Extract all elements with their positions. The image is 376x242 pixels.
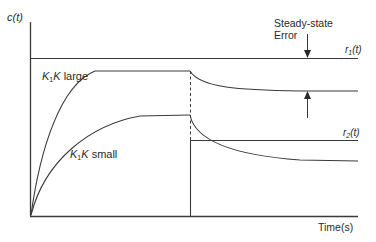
curve-large-gain xyxy=(31,71,190,215)
arrow-up-icon xyxy=(304,91,311,99)
reference-1-label: r1(t) xyxy=(345,44,362,56)
control-response-diagram: c(t) Time(s) Steady-state Error r1(t) r2… xyxy=(0,0,376,242)
curve-small-gain-after xyxy=(190,115,358,161)
steady-state-label-line2: Error xyxy=(274,29,298,41)
arrow-down-icon xyxy=(304,50,311,58)
steady-state-label-line1: Steady-state xyxy=(274,17,333,29)
curve-large-gain-after xyxy=(190,71,358,91)
reference-2-label: r2(t) xyxy=(343,127,360,139)
y-axis-label: c(t) xyxy=(7,11,23,23)
curve-large-label: K1K large xyxy=(42,70,88,83)
curve-small-gain xyxy=(31,115,190,215)
x-axis-label: Time(s) xyxy=(318,221,353,233)
curve-small-label: K1K small xyxy=(70,148,117,161)
